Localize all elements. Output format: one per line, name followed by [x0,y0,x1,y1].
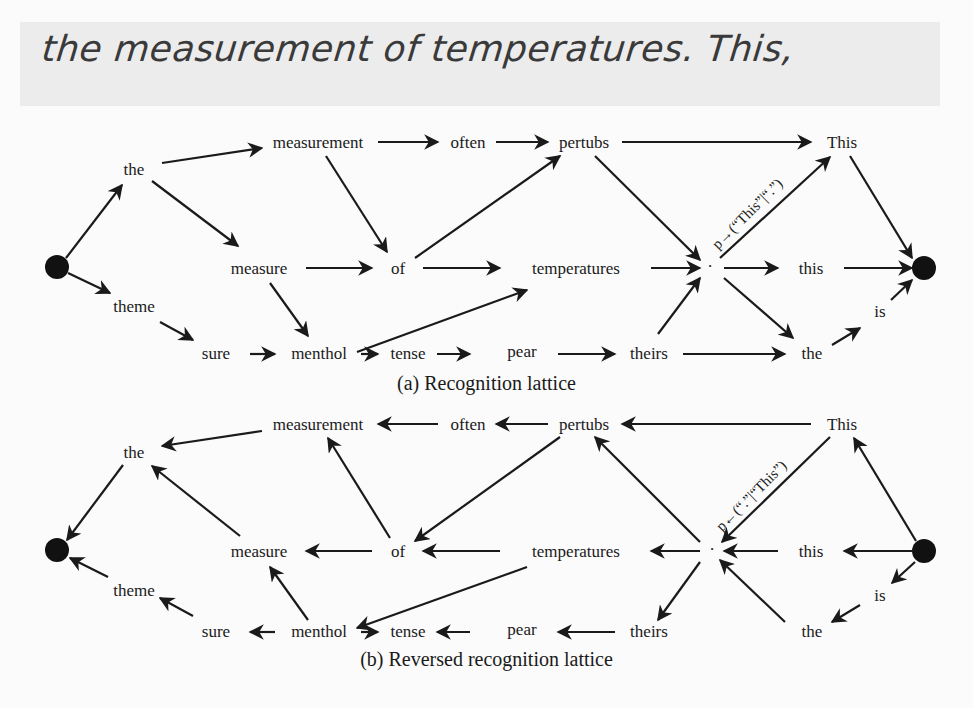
recognition-lattice: the theme measurement often pertubs This… [0,120,973,370]
node-temperatures: temperatures [532,542,620,561]
handwriting-text: the measurement of temperatures. This, [40,28,797,69]
node-period: · [707,257,713,276]
node-sure: sure [202,344,230,363]
reversed-recognition-lattice: the theme measurement often pertubs This… [0,405,973,645]
node-pertubs: pertubs [559,415,609,434]
node-theme: theme [113,581,155,600]
node-this: this [799,542,824,561]
node-of: of [391,542,406,561]
node-is: is [874,302,885,321]
node-of: of [391,259,406,278]
node-theirs: theirs [630,344,668,363]
caption-a: (a) Recognition lattice [0,372,973,395]
node-this: this [799,259,824,278]
end-node [912,539,936,563]
node-pertubs: pertubs [559,133,609,152]
node-menthol: menthol [291,344,347,363]
node-measurement: measurement [273,415,364,434]
node-theme: theme [113,297,155,316]
end-node [912,256,936,280]
node-is: is [874,586,885,605]
node-measurement: measurement [273,133,364,152]
caption-b: (b) Reversed recognition lattice [0,648,973,671]
node-measure: measure [231,259,288,278]
node-the: the [124,160,145,179]
node-the-2: the [802,344,823,363]
node-the-2: the [802,622,823,641]
node-often: often [451,415,486,434]
edge-label-backward-prob: p←(“.”|“This”) [713,457,790,534]
node-This: This [827,415,857,434]
node-This: This [827,133,857,152]
node-pear: pear [507,620,537,639]
node-the: the [124,443,145,462]
node-period: · [709,540,715,559]
lattice-a-edges [66,142,912,354]
node-measure: measure [231,542,288,561]
lattice-b-edges [67,424,916,632]
node-tense: tense [391,344,426,363]
start-node [45,255,69,279]
node-sure: sure [202,622,230,641]
node-theirs: theirs [630,622,668,641]
node-often: often [451,133,486,152]
start-node [45,538,69,562]
edge-label-forward-prob: p→(“This”|“.”) [709,175,786,252]
node-tense: tense [391,622,426,641]
node-temperatures: temperatures [532,259,620,278]
node-pear: pear [507,342,537,361]
node-menthol: menthol [291,622,347,641]
